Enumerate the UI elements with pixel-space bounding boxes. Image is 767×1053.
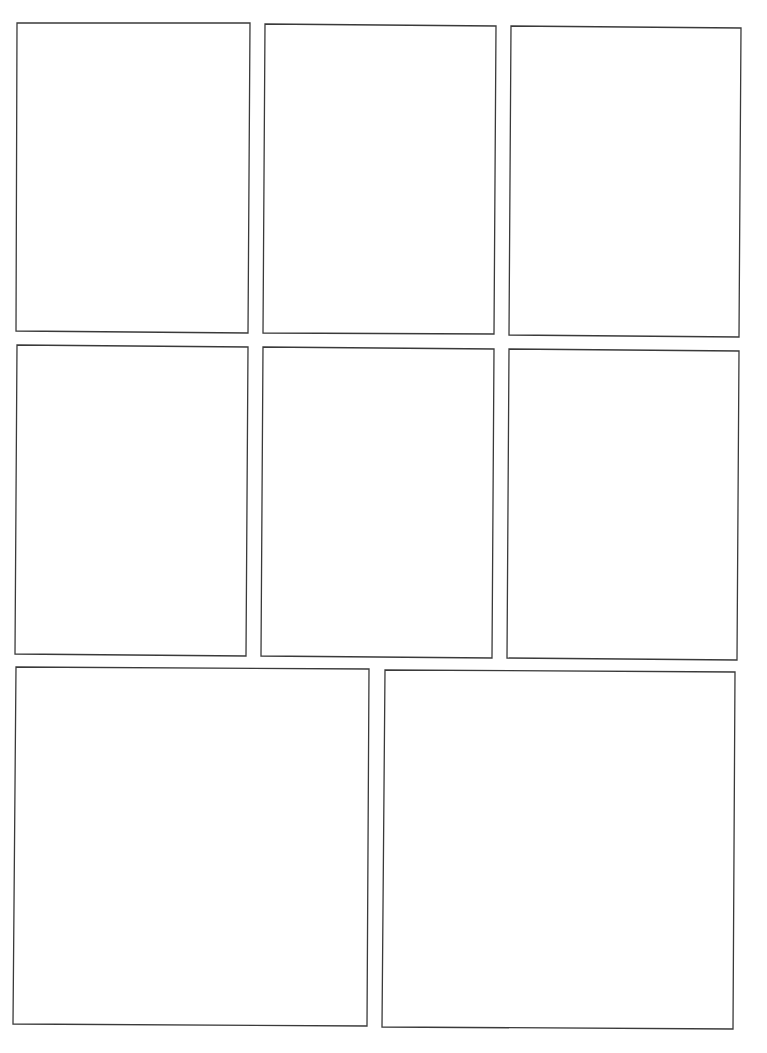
comic-page: Blank comic panel layout [0,0,767,1053]
panel-row3-col2 [382,670,735,1029]
panel-row2-col2 [261,347,494,658]
panel-row1-col2 [263,24,496,334]
panel-row1-col1 [16,23,250,333]
panel-row1-col3 [509,26,741,337]
panel-layout [0,0,767,1053]
panel-row2-col3 [507,349,739,660]
panel-row3-col1 [13,667,369,1026]
panel-row2-col1 [15,345,248,656]
